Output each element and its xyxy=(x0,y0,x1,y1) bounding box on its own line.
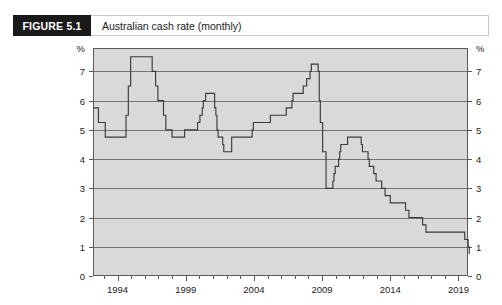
cash-rate-line-chart: 01234567 01234567 1994199920042009201420… xyxy=(0,36,502,305)
y-tick-label-left-4: 4 xyxy=(80,154,85,165)
y-tick-label-left-1: 1 xyxy=(80,242,85,253)
x-tick-label-1994: 1994 xyxy=(107,284,128,295)
chart-container: 01234567 01234567 1994199920042009201420… xyxy=(0,36,502,305)
x-tick-label-2014: 2014 xyxy=(380,284,401,295)
y-tick-label-left-7: 7 xyxy=(80,66,85,77)
figure-number-label: FIGURE 5.1 xyxy=(13,15,91,36)
y-tick-label-right-5: 5 xyxy=(476,125,481,136)
figure-header: FIGURE 5.1 Australian cash rate (monthly… xyxy=(13,15,489,36)
x-tick-label-1999: 1999 xyxy=(175,284,196,295)
y-tick-label-right-4: 4 xyxy=(476,154,481,165)
y-tick-label-right-1: 1 xyxy=(476,242,481,253)
y-tick-label-right-2: 2 xyxy=(476,213,481,224)
y-tick-label-left-3: 3 xyxy=(80,183,85,194)
y-axis-unit-label-right: % xyxy=(476,43,485,54)
y-tick-label-right-3: 3 xyxy=(476,183,481,194)
y-tick-label-left-6: 6 xyxy=(80,96,85,107)
y-tick-label-right-6: 6 xyxy=(476,96,481,107)
y-tick-label-left-0: 0 xyxy=(80,271,85,282)
x-tick-label-2004: 2004 xyxy=(243,284,264,295)
y-tick-label-left-2: 2 xyxy=(80,213,85,224)
x-tick-label-2009: 2009 xyxy=(312,284,333,295)
x-tick-label-2019: 2019 xyxy=(448,284,469,295)
y-tick-label-right-7: 7 xyxy=(476,66,481,77)
x-axis-bottom: 199419992004200920142019 xyxy=(105,276,470,295)
figure-title: Australian cash rate (monthly) xyxy=(91,15,489,36)
y-tick-label-right-0: 0 xyxy=(476,271,481,282)
y-axis-left: 01234567 xyxy=(80,48,94,282)
y-tick-label-left-5: 5 xyxy=(80,125,85,136)
y-axis-unit-label-left: % xyxy=(77,43,86,54)
plot-background xyxy=(93,48,468,276)
